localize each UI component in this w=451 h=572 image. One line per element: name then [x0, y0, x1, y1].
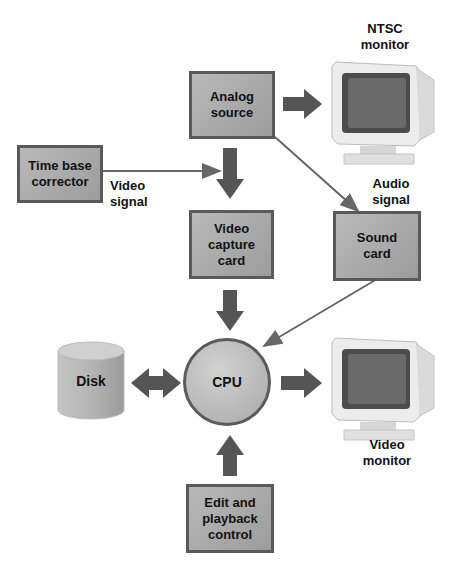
- video-signal-label-line1: Video: [110, 178, 158, 194]
- disk-label: Disk: [58, 373, 124, 389]
- arrow-edit-to-cpu: [216, 435, 244, 476]
- arrow-cpu-to-video-monitor: [281, 368, 322, 398]
- cpu-label: CPU: [212, 374, 242, 390]
- ntsc-monitor-icon: [332, 62, 434, 164]
- video-signal-label: Video signal: [110, 178, 158, 210]
- audio-signal-label-line2: signal: [363, 192, 419, 208]
- analog-source-line2: source: [210, 105, 254, 121]
- multimedia-video-capture-diagram: Analog source Time base corrector Video …: [0, 0, 451, 572]
- sound-card-line1: Sound: [357, 230, 397, 246]
- sound-card-box: Sound card: [333, 211, 421, 281]
- arrow-analog-to-ntsc: [283, 89, 322, 119]
- ntsc-monitor-label-line2: monitor: [350, 37, 420, 53]
- arrow-capture-to-cpu: [216, 290, 244, 331]
- video-capture-card-box: Video capture card: [189, 210, 274, 279]
- edit-playback-control-line2: playback: [202, 511, 258, 527]
- arrow-analog-to-capture: [216, 148, 244, 199]
- video-monitor-icon: [332, 338, 434, 440]
- audio-signal-label: Audio signal: [363, 176, 419, 208]
- video-monitor-label-line2: monitor: [352, 453, 422, 469]
- sound-card-line2: card: [357, 246, 397, 262]
- video-signal-label-line2: signal: [110, 194, 158, 210]
- edit-playback-control-line3: control: [202, 527, 258, 543]
- video-capture-card-line1: Video: [208, 221, 255, 237]
- audio-signal-label-line1: Audio: [363, 176, 419, 192]
- cpu-node: CPU: [183, 338, 271, 426]
- arrow-disk-cpu-bidirectional: [131, 368, 181, 398]
- video-capture-card-line3: card: [208, 253, 255, 269]
- time-base-corrector-line1: Time base: [28, 158, 91, 174]
- time-base-corrector-box: Time base corrector: [17, 145, 103, 203]
- video-monitor-label-line1: Video: [352, 437, 422, 453]
- ntsc-monitor-label: NTSC monitor: [350, 21, 420, 53]
- video-capture-card-line2: capture: [208, 237, 255, 253]
- analog-source-box: Analog source: [189, 71, 275, 139]
- edit-playback-control-line1: Edit and: [202, 495, 258, 511]
- ntsc-monitor-label-line1: NTSC: [350, 21, 420, 37]
- video-monitor-label: Video monitor: [352, 437, 422, 469]
- audio-signal-line: [275, 137, 358, 211]
- edit-playback-control-box: Edit and playback control: [186, 484, 274, 553]
- analog-source-line1: Analog: [210, 89, 254, 105]
- time-base-corrector-line2: corrector: [28, 174, 91, 190]
- sound-to-cpu-line: [264, 279, 377, 346]
